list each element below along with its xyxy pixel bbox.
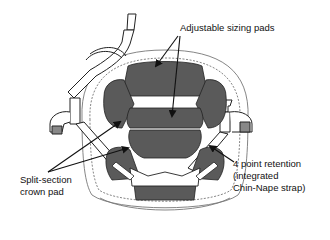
callout-adjustable-sizing-pads: Adjustable sizing pads bbox=[180, 22, 275, 34]
callout-split-section-crown-pad: Split-section crown pad bbox=[20, 174, 72, 198]
callout-four-point-retention: 4 point retention (integrated Chin-Nape … bbox=[233, 158, 305, 194]
callout-text-line-1: Split-section bbox=[20, 174, 72, 186]
callout-text-line-2: (integrated bbox=[233, 170, 305, 182]
crown-pad-lower bbox=[129, 130, 201, 158]
callout-text-line-2: crown pad bbox=[20, 186, 72, 198]
callout-text-line-1: 4 point retention bbox=[233, 158, 305, 170]
callout-text: Adjustable sizing pads bbox=[180, 22, 275, 34]
callout-text-line-3: Chin-Nape strap) bbox=[233, 182, 305, 194]
crown-pad-upper bbox=[127, 108, 203, 128]
front-pad bbox=[122, 62, 208, 97]
rear-band bbox=[130, 168, 200, 186]
